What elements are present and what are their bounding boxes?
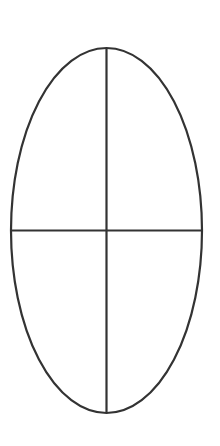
quartered-ellipse-diagram [0,0,220,446]
